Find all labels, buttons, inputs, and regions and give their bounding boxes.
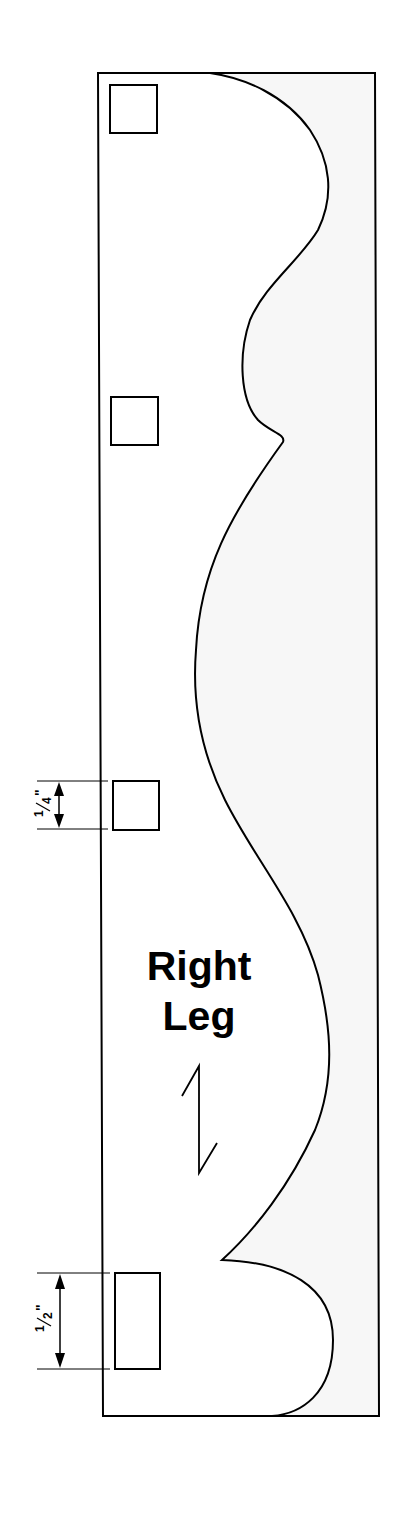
mortise-rect-4: [115, 1273, 160, 1369]
svg-text:": ": [33, 1304, 49, 1311]
waste-region: [195, 73, 379, 1416]
arrow-down-icon: [55, 1353, 65, 1368]
svg-text:1: 1: [32, 810, 46, 817]
pattern-title-line2: Leg: [163, 993, 236, 1039]
mortise-square-2: [111, 397, 158, 445]
mortise-square-1: [110, 85, 157, 133]
pattern-title-line1: Right: [147, 943, 252, 989]
svg-text:1: 1: [33, 1325, 47, 1332]
dimension-label-quarter: 1 4 ": [32, 789, 54, 817]
svg-text:2: 2: [41, 1312, 55, 1319]
arrow-down-icon: [54, 814, 64, 828]
svg-text:": ": [32, 789, 48, 796]
dimension-quarter-inch: [37, 781, 108, 829]
svg-text:4: 4: [40, 797, 54, 804]
dimension-label-half: 1 2 ": [33, 1304, 55, 1332]
grain-arrow-icon: [182, 1066, 217, 1173]
mortise-square-3: [113, 781, 159, 830]
arrow-up-icon: [55, 1274, 65, 1289]
dimension-half-inch: [37, 1273, 110, 1369]
pattern-drawing: 1 4 " 1 2 " Right Leg: [0, 0, 413, 1517]
arrow-up-icon: [54, 782, 64, 796]
